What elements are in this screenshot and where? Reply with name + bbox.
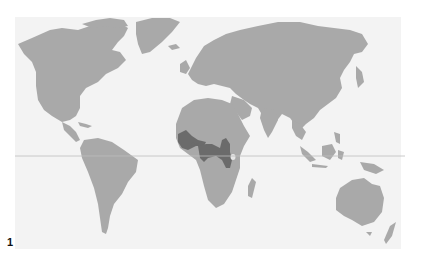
- new-guinea: [360, 162, 384, 174]
- madagascar-island: [248, 178, 256, 198]
- sumatra: [300, 146, 316, 162]
- landmasses: [18, 18, 396, 244]
- tasmania: [366, 232, 372, 236]
- south-america: [80, 138, 138, 234]
- iceland: [168, 44, 180, 50]
- philippines: [334, 132, 340, 144]
- central-america: [62, 122, 80, 142]
- australia: [336, 178, 384, 226]
- north-america: [18, 22, 128, 122]
- world-map: [0, 0, 424, 264]
- gulf-islands: [192, 143, 195, 146]
- sulawesi: [338, 150, 344, 160]
- borneo: [322, 144, 336, 160]
- java: [312, 164, 328, 168]
- japan: [356, 66, 364, 88]
- caribbean: [78, 122, 92, 128]
- british-isles: [180, 60, 190, 74]
- lake-victoria: [231, 154, 236, 160]
- figure-label: 1: [7, 236, 13, 248]
- indian-subcontinent: [260, 108, 278, 138]
- new-zealand: [384, 222, 396, 244]
